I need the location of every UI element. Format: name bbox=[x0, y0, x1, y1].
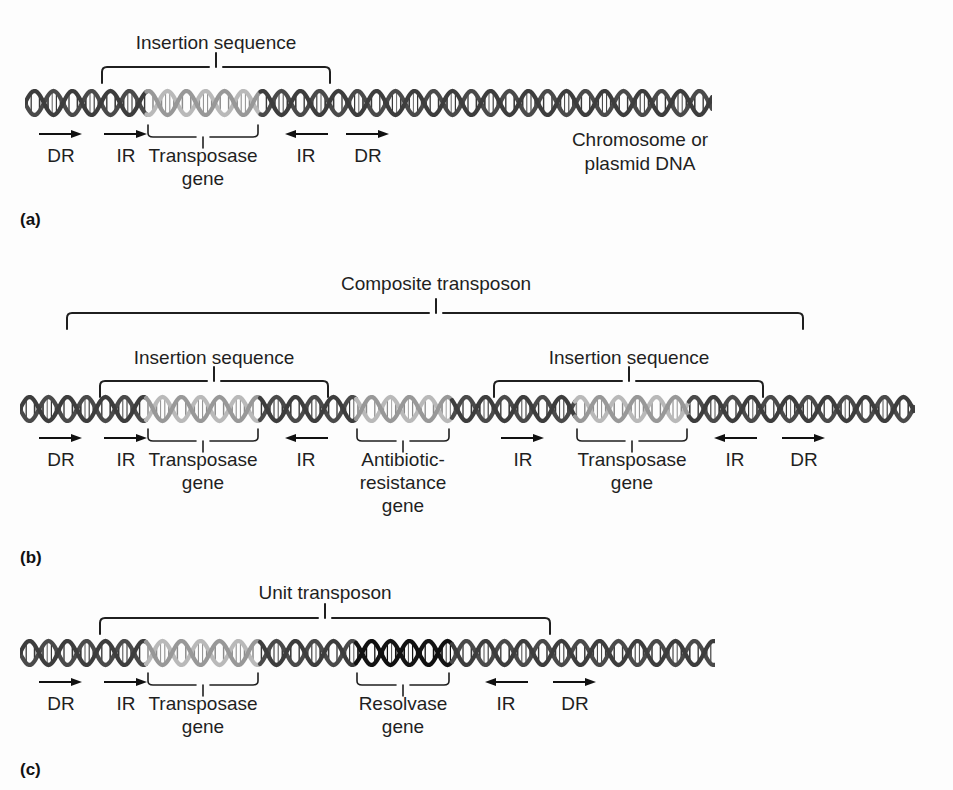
panel-a-dr-right-arrow-icon bbox=[345, 127, 391, 141]
panel-c-transposase-line2: gene bbox=[182, 715, 224, 738]
panel-a-marker-ir-right: IR bbox=[297, 144, 316, 167]
panel-a-tag: (a) bbox=[20, 210, 41, 230]
panel-b-dna-strand bbox=[20, 390, 915, 428]
panel-a-ir-left-arrow-icon bbox=[103, 127, 149, 141]
panel-b-dr-right-arrow-icon bbox=[781, 431, 827, 445]
panel-a-insertion-sequence-label: Insertion sequence bbox=[136, 31, 297, 54]
panel-a-chromosome-label-line2: plasmid DNA bbox=[585, 152, 696, 175]
panel-c-dr-left-arrow-icon bbox=[38, 675, 84, 689]
panel-c-marker-ir-left: IR bbox=[117, 692, 136, 715]
panel-b-transposase-right-bracket bbox=[575, 428, 689, 442]
panel-c-marker-ir-right: IR bbox=[497, 692, 516, 715]
panel-b-insertion-sequence-left-label: Insertion sequence bbox=[134, 346, 295, 369]
panel-c-dna-strand bbox=[20, 634, 715, 672]
panel-b-transposase-left-line1: Transposase bbox=[148, 448, 257, 471]
panel-b-marker-dr-left: DR bbox=[47, 448, 74, 471]
panel-b-antibiotic-line3: gene bbox=[382, 494, 424, 517]
panel-b-transposase-right-line1: Transposase bbox=[577, 448, 686, 471]
panel-a-dna-strand bbox=[25, 84, 712, 122]
panel-b-ir-2-arrow-icon bbox=[283, 431, 329, 445]
figure-root: Insertion sequence bbox=[0, 0, 953, 790]
panel-c-resolvase-line2: gene bbox=[382, 715, 424, 738]
panel-c-tag: (c) bbox=[20, 760, 41, 780]
panel-c-ir-right-arrow-icon bbox=[483, 675, 529, 689]
panel-b-transposase-right-line2: gene bbox=[611, 471, 653, 494]
panel-a-marker-dr-right: DR bbox=[354, 144, 381, 167]
panel-c-resolvase-line1: Resolvase bbox=[359, 692, 448, 715]
panel-b-ir-4-arrow-icon bbox=[712, 431, 758, 445]
panel-a-transposase-gene-bracket bbox=[146, 124, 260, 138]
panel-b-insertion-sequence-right-label: Insertion sequence bbox=[549, 346, 710, 369]
panel-a-insertion-sequence-bracket bbox=[100, 64, 332, 82]
panel-b-marker-ir-2: IR bbox=[297, 448, 316, 471]
panel-a-chromosome-label-line1: Chromosome or bbox=[572, 128, 708, 151]
panel-b-transposase-left-line2: gene bbox=[182, 471, 224, 494]
panel-a-transposase-label-line2: gene bbox=[182, 167, 224, 190]
panel-c-ir-left-arrow-icon bbox=[103, 675, 149, 689]
panel-b-transposase-left-bracket bbox=[146, 428, 260, 442]
panel-c-transposase-gene-bracket bbox=[146, 672, 260, 686]
panel-c-unit-transposon-bracket bbox=[98, 615, 552, 633]
panel-b-marker-ir-3: IR bbox=[514, 448, 533, 471]
panel-c-resolvase-gene-bracket bbox=[355, 672, 451, 686]
panel-b-antibiotic-line1: Antibiotic- bbox=[361, 448, 444, 471]
panel-c-marker-dr-right: DR bbox=[561, 692, 588, 715]
panel-b-ir-3-arrow-icon bbox=[500, 431, 546, 445]
panel-c-unit-transposon-label: Unit transposon bbox=[258, 581, 391, 604]
panel-b-antibiotic-line2: resistance bbox=[360, 471, 447, 494]
panel-b-composite-transposon-label: Composite transposon bbox=[341, 272, 531, 295]
panel-a-dr-left-arrow-icon bbox=[38, 127, 84, 141]
panel-b-dr-left-arrow-icon bbox=[38, 431, 84, 445]
panel-a-transposase-label-line1: Transposase bbox=[148, 144, 257, 167]
panel-c-marker-dr-left: DR bbox=[47, 692, 74, 715]
panel-b-ir-1-arrow-icon bbox=[103, 431, 149, 445]
panel-b-tag: (b) bbox=[20, 548, 42, 568]
panel-b-marker-dr-right: DR bbox=[790, 448, 817, 471]
panel-a-marker-ir-left: IR bbox=[117, 144, 136, 167]
panel-b-marker-ir-4: IR bbox=[726, 448, 745, 471]
panel-b-antibiotic-resistance-bracket bbox=[355, 428, 451, 442]
panel-b-marker-ir-1: IR bbox=[117, 448, 136, 471]
panel-b-composite-transposon-bracket bbox=[65, 310, 805, 328]
panel-a-ir-right-arrow-icon bbox=[283, 127, 329, 141]
panel-c-transposase-line1: Transposase bbox=[148, 692, 257, 715]
panel-a-marker-dr-left: DR bbox=[47, 144, 74, 167]
panel-c-dr-right-arrow-icon bbox=[552, 675, 598, 689]
